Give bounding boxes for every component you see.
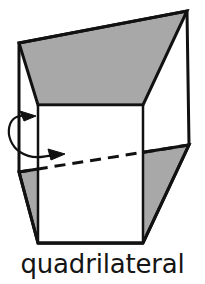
quadrilateral-solid-diagram: [0, 0, 205, 284]
top-face: [19, 11, 187, 105]
figure-container: quadrilateral: [0, 0, 205, 284]
middle-band-face: [38, 105, 143, 243]
figure-caption: quadrilateral: [0, 249, 205, 279]
rotation-arrowhead-upper-icon: [20, 111, 36, 121]
